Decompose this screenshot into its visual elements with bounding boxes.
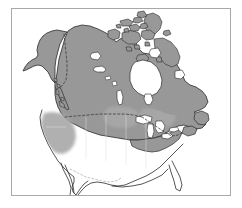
arctic-islet-e: [126, 47, 132, 51]
lake-superior: [136, 115, 152, 124]
lake-michigan: [147, 124, 154, 138]
arctic-islet-a: [116, 24, 121, 28]
coastal-islet-a: [57, 84, 60, 88]
coastal-islet-c: [54, 78, 57, 82]
reindeer-lake: [112, 81, 117, 86]
arctic-islet-d: [134, 45, 140, 49]
banks-island: [108, 29, 120, 40]
arctic-islet-c: [145, 42, 150, 46]
arctic-islet-b: [124, 28, 129, 32]
map-border: [11, 8, 231, 196]
coastal-islet-b: [61, 97, 64, 101]
north-america-range-map: [0, 0, 242, 208]
lake-athabasca: [105, 76, 111, 80]
map-canvas: [12, 9, 230, 195]
